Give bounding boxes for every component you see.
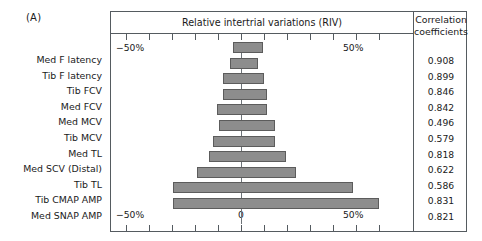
riv-bar xyxy=(219,120,275,131)
correlation-value: 0.622 xyxy=(414,163,468,177)
axis-tick xyxy=(379,225,380,231)
axis-tick xyxy=(149,225,150,231)
correlation-value: 0.579 xyxy=(414,132,468,146)
plot-area: −50% 50% −50% 0 50% xyxy=(111,34,413,231)
correlation-header-line-1: Correlation xyxy=(414,14,468,26)
row-label: Med SCV (Distal) xyxy=(23,162,102,176)
riv-bar xyxy=(223,89,268,100)
row-label: Med F latency xyxy=(36,53,102,67)
riv-bar xyxy=(209,151,286,162)
correlation-value: 0.818 xyxy=(414,148,468,162)
correlation-value: 0.846 xyxy=(414,85,468,99)
row-label: Tib CMAP AMP xyxy=(35,193,102,207)
row-label: Tib TL xyxy=(74,178,102,192)
riv-bar xyxy=(173,182,352,193)
riv-bar xyxy=(173,198,379,209)
axis-tick xyxy=(310,225,311,231)
axis-tick xyxy=(195,225,196,231)
riv-bar xyxy=(223,73,264,84)
riv-bar xyxy=(230,58,259,69)
row-label: Med TL xyxy=(68,147,102,161)
row-label: Med FCV xyxy=(61,100,102,114)
axis-tick xyxy=(287,225,288,231)
chart-frame: Relative intertrial variations (RIV) Cor… xyxy=(110,11,467,232)
row-label: Med MCV xyxy=(58,115,102,129)
x-axis-ticks-bottom xyxy=(111,224,413,231)
correlation-value: 0.899 xyxy=(414,70,468,84)
correlation-coefficients-header: Correlation coefficients xyxy=(414,14,468,37)
axis-tick xyxy=(333,225,334,231)
row-label: Tib FCV xyxy=(67,84,102,98)
axis-tick xyxy=(172,225,173,231)
correlation-value: 0.821 xyxy=(414,210,468,224)
correlation-value: 0.908 xyxy=(414,54,468,68)
axis-tick xyxy=(356,225,357,231)
axis-tick xyxy=(218,225,219,231)
axis-tick xyxy=(264,225,265,231)
riv-bar xyxy=(213,136,275,147)
chart-title-band: Relative intertrial variations (RIV) xyxy=(111,12,413,34)
riv-bar xyxy=(197,167,296,178)
riv-bar xyxy=(233,42,263,53)
panel-letter: (A) xyxy=(26,12,41,23)
bar-series-group xyxy=(111,34,413,224)
correlation-value: 0.831 xyxy=(414,194,468,208)
chart-title: Relative intertrial variations (RIV) xyxy=(182,17,342,28)
correlation-value: 0.496 xyxy=(414,116,468,130)
correlation-header-line-2: coefficients xyxy=(414,26,468,38)
axis-tick xyxy=(241,225,242,231)
row-label: Med SNAP AMP xyxy=(31,209,102,223)
riv-bar xyxy=(217,104,268,115)
correlation-value: 0.842 xyxy=(414,101,468,115)
correlation-value: 0.586 xyxy=(414,179,468,193)
row-label: Tib F latency xyxy=(42,69,102,83)
axis-tick xyxy=(126,225,127,231)
correlation-coefficients-column: Correlation coefficients 0.9080.8990.846… xyxy=(413,12,468,231)
row-label: Tib MCV xyxy=(64,131,102,145)
row-label-list: Med F latencyTib F latencyTib FCVMed FCV… xyxy=(0,53,106,208)
